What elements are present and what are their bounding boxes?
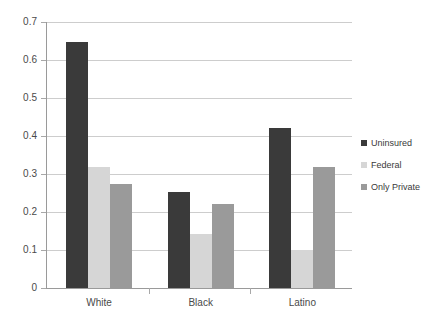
- bar: [66, 42, 88, 288]
- y-tick-label: 0.3: [23, 169, 37, 179]
- bar: [190, 234, 212, 288]
- legend-label: Federal: [371, 160, 402, 170]
- x-category-label: White: [59, 297, 139, 308]
- y-tick-label: 0.5: [23, 93, 37, 103]
- legend-item[interactable]: Uninsured: [361, 138, 433, 160]
- legend-item[interactable]: Federal: [361, 160, 433, 182]
- chart-legend: UninsuredFederalOnly Private: [361, 138, 433, 204]
- legend-item[interactable]: Only Private: [361, 182, 433, 204]
- bar: [88, 167, 110, 288]
- legend-label: Uninsured: [371, 138, 412, 148]
- bar: [168, 192, 190, 288]
- x-category-label: Latino: [262, 297, 342, 308]
- x-group-separator: [149, 288, 150, 294]
- bar-chart: 00.10.20.30.40.50.60.7 WhiteBlackLatino …: [0, 0, 433, 324]
- bar: [110, 184, 132, 289]
- x-axis-line: [46, 288, 352, 289]
- legend-swatch-icon: [361, 184, 367, 190]
- bars-layer: [47, 22, 352, 288]
- y-tick-label: 0: [31, 283, 37, 293]
- x-category-label: Black: [161, 297, 241, 308]
- y-tick-label: 0.2: [23, 207, 37, 217]
- y-axis: 00.10.20.30.40.50.60.7: [0, 0, 46, 324]
- bar: [313, 167, 335, 288]
- bar: [212, 204, 234, 288]
- x-group-separator: [250, 288, 251, 294]
- y-tick-label: 0.6: [23, 55, 37, 65]
- y-tick-label: 0.7: [23, 17, 37, 27]
- legend-swatch-icon: [361, 140, 367, 146]
- y-tick-label: 0.4: [23, 131, 37, 141]
- bar: [291, 250, 313, 288]
- legend-label: Only Private: [371, 182, 420, 192]
- plot-area: [47, 22, 352, 288]
- bar: [269, 128, 291, 288]
- y-tick-label: 0.1: [23, 245, 37, 255]
- legend-swatch-icon: [361, 162, 367, 168]
